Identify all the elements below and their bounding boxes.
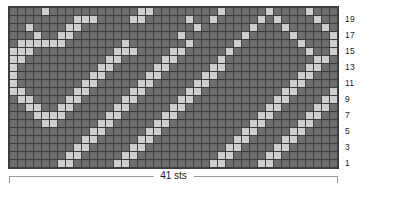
chart-cell <box>58 48 66 56</box>
chart-cell <box>82 152 90 160</box>
chart-cell <box>10 64 18 72</box>
chart-cell <box>226 104 234 112</box>
chart-cell <box>226 64 234 72</box>
chart-cell <box>330 72 338 80</box>
chart-cell <box>98 112 106 120</box>
chart-cell <box>66 96 74 104</box>
chart-cell <box>330 32 338 40</box>
chart-cell <box>194 48 202 56</box>
chart-cell <box>178 72 186 80</box>
chart-row <box>10 128 338 136</box>
chart-cell <box>274 128 282 136</box>
chart-cell <box>178 48 186 56</box>
chart-cell <box>242 8 250 16</box>
chart-cell <box>250 160 258 168</box>
chart-cell <box>170 160 178 168</box>
chart-cell <box>218 96 226 104</box>
chart-cell <box>298 24 306 32</box>
chart-cell <box>330 40 338 48</box>
width-bracket: 41 sts <box>9 176 338 206</box>
chart-cell <box>138 136 146 144</box>
chart-cell <box>146 40 154 48</box>
chart-row <box>10 160 338 168</box>
chart-cell <box>330 128 338 136</box>
chart-row <box>10 64 338 72</box>
chart-cell <box>90 144 98 152</box>
chart-cell <box>298 128 306 136</box>
chart-cell <box>90 8 98 16</box>
chart-cell <box>218 112 226 120</box>
chart-cell <box>82 56 90 64</box>
chart-cell <box>234 56 242 64</box>
chart-cell <box>18 136 26 144</box>
chart-cell <box>130 88 138 96</box>
chart-cell <box>194 80 202 88</box>
chart-cell <box>274 104 282 112</box>
chart-cell <box>90 32 98 40</box>
row-number-label: 13 <box>345 63 355 71</box>
chart-cell <box>194 160 202 168</box>
chart-cell <box>34 88 42 96</box>
chart-cell <box>266 48 274 56</box>
chart-cell <box>242 64 250 72</box>
chart-cell <box>290 160 298 168</box>
chart-cell <box>106 48 114 56</box>
chart-cell <box>314 56 322 64</box>
chart-cell <box>58 56 66 64</box>
chart-cell <box>90 56 98 64</box>
chart-cell <box>58 128 66 136</box>
chart-cell <box>10 8 18 16</box>
chart-cell <box>130 112 138 120</box>
chart-cell <box>250 144 258 152</box>
chart-cell <box>98 128 106 136</box>
chart-cell <box>274 144 282 152</box>
chart-cell <box>58 144 66 152</box>
chart-cell <box>298 152 306 160</box>
chart-cell <box>330 152 338 160</box>
chart-cell <box>98 8 106 16</box>
chart-cell <box>202 56 210 64</box>
chart-cell <box>130 32 138 40</box>
chart-cell <box>274 80 282 88</box>
chart-cell <box>98 152 106 160</box>
chart-cell <box>154 88 162 96</box>
chart-cell <box>154 64 162 72</box>
chart-cell <box>162 152 170 160</box>
chart-cell <box>314 48 322 56</box>
chart-cell <box>58 40 66 48</box>
chart-cell <box>50 16 58 24</box>
chart-row <box>10 104 338 112</box>
chart-cell <box>266 40 274 48</box>
chart-cell <box>50 104 58 112</box>
chart-cell <box>306 24 314 32</box>
chart-row <box>10 32 338 40</box>
chart-cell <box>210 152 218 160</box>
chart-cell <box>122 64 130 72</box>
chart-cell <box>170 72 178 80</box>
row-number-label: 1 <box>345 159 350 167</box>
chart-cell <box>26 120 34 128</box>
chart-cell <box>290 24 298 32</box>
chart-cell <box>242 128 250 136</box>
chart-cell <box>226 120 234 128</box>
chart-cell <box>50 72 58 80</box>
chart-cell <box>202 160 210 168</box>
chart-cell <box>146 128 154 136</box>
chart-cell <box>162 96 170 104</box>
chart-cell <box>242 104 250 112</box>
chart-cell <box>322 104 330 112</box>
chart-cell <box>74 160 82 168</box>
chart-cell <box>34 8 42 16</box>
chart-cell <box>322 8 330 16</box>
chart-cell <box>178 136 186 144</box>
chart-cell <box>322 40 330 48</box>
chart-cell <box>210 88 218 96</box>
chart-cell <box>138 8 146 16</box>
chart-cell <box>266 144 274 152</box>
chart-cell <box>122 112 130 120</box>
chart-cell <box>74 96 82 104</box>
chart-cell <box>250 40 258 48</box>
chart-cell <box>82 16 90 24</box>
chart-cell <box>298 80 306 88</box>
chart-cell <box>298 48 306 56</box>
